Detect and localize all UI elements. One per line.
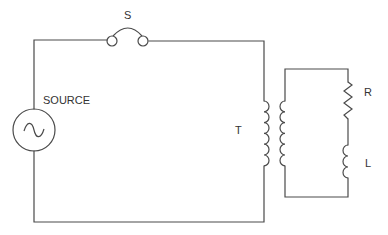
- circuit-diagram: S SOURCE T R L: [0, 0, 388, 235]
- secondary-circuit: [285, 69, 348, 197]
- inductor-label: L: [365, 157, 371, 169]
- ac-source: SOURCE: [13, 94, 90, 151]
- switch-terminal-right: [138, 36, 148, 46]
- switch-label: S: [124, 9, 131, 21]
- switch-terminal-left: [107, 36, 117, 46]
- transformer: T: [235, 101, 285, 166]
- switch-arm: [113, 28, 142, 36]
- wire-secondary-top: [285, 69, 348, 101]
- primary-circuit: [34, 40, 264, 222]
- transformer-primary-coil: [264, 101, 269, 166]
- sine-wave-icon: [24, 123, 44, 136]
- wire-secondary-bottom: [285, 166, 348, 197]
- switch: S: [107, 9, 148, 46]
- resistor-zigzag: [344, 82, 352, 119]
- inductor: L: [343, 145, 371, 178]
- source-label: SOURCE: [43, 94, 90, 106]
- inductor-coil: [343, 145, 348, 178]
- resistor: R: [344, 82, 372, 119]
- transformer-secondary-coil: [280, 101, 285, 166]
- transformer-label: T: [235, 124, 242, 136]
- resistor-label: R: [364, 86, 372, 98]
- wire-top-right: [149, 41, 264, 101]
- wire-bottom: [34, 151, 264, 222]
